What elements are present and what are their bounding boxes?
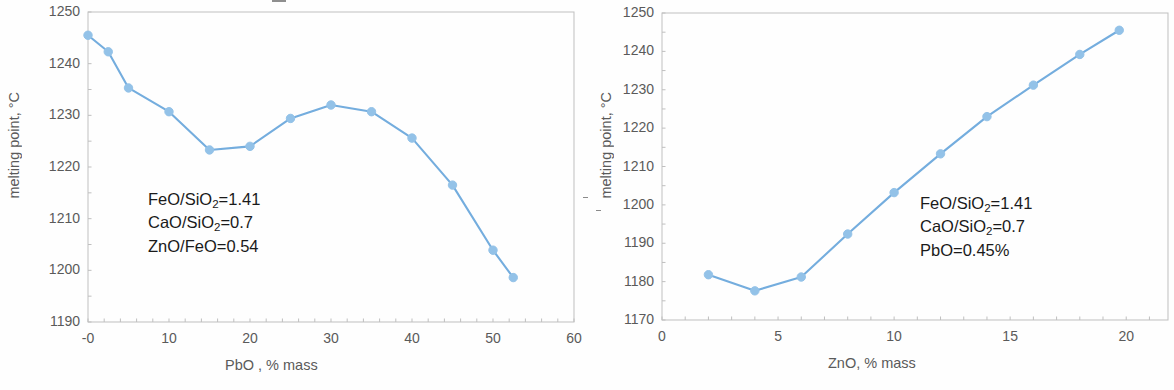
y-tick-label: 1200 — [49, 261, 80, 277]
cropped-title-fragment — [272, 0, 286, 2]
y-tick-label: 1180 — [624, 273, 654, 289]
y-tick-label: 1250 — [623, 4, 654, 20]
y-tick-label: 1220 — [49, 158, 80, 174]
scan-artifact-mark — [596, 210, 601, 211]
x-tick-label: 40 — [392, 330, 432, 346]
y-tick-label: 1190 — [50, 313, 80, 329]
chart-right-zno: melting point, °C ZnO, % mass FeO/SiO2=1… — [590, 0, 1174, 390]
y-tick-label: 1240 — [623, 42, 654, 58]
y-tick-label: 1230 — [623, 81, 654, 97]
y-tick-label: 1250 — [49, 3, 80, 19]
scan-artifact-mark — [583, 197, 588, 198]
x-tick-label: 30 — [311, 330, 351, 346]
x-tick-label: 10 — [874, 328, 914, 344]
y-tick-label: 1230 — [49, 106, 80, 122]
x-tick-label: 15 — [990, 328, 1030, 344]
x-tick-label: -0 — [68, 330, 108, 346]
x-tick-label: 60 — [554, 330, 594, 346]
y-tick-label: 1200 — [623, 196, 654, 212]
x-tick-label: 5 — [758, 328, 798, 344]
y-tick-label: 1190 — [624, 234, 654, 250]
x-tick-label: 20 — [230, 330, 270, 346]
x-tick-label: 50 — [473, 330, 513, 346]
y-tick-label: 1210 — [49, 210, 80, 226]
y-tick-label: 1210 — [623, 158, 654, 174]
x-tick-label: 20 — [1106, 328, 1146, 344]
y-tick-label: 1240 — [49, 55, 80, 71]
figure-pair-container: melting point, °C PbO , % mass FeO/SiO2=… — [0, 0, 1174, 390]
y-tick-label: 1170 — [624, 311, 654, 327]
y-tick-label: 1220 — [623, 119, 654, 135]
x-tick-label: 10 — [149, 330, 189, 346]
chart-left-pbo: melting point, °C PbO , % mass FeO/SiO2=… — [0, 0, 590, 390]
x-tick-label: 0 — [642, 328, 682, 344]
